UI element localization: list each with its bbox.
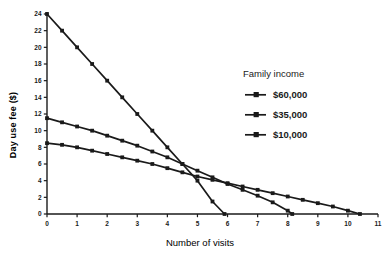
series-marker bbox=[301, 198, 305, 202]
series-marker bbox=[211, 200, 215, 204]
y-tick-label: 0 bbox=[38, 210, 42, 217]
series-marker bbox=[271, 191, 275, 195]
series-marker bbox=[181, 170, 185, 174]
series-marker bbox=[196, 175, 200, 179]
x-tick-label: 4 bbox=[166, 220, 170, 227]
y-tick-label: 8 bbox=[38, 144, 42, 151]
y-tick-label: 22 bbox=[34, 27, 42, 34]
y-tick-label: 20 bbox=[34, 44, 42, 51]
legend-title: Family income bbox=[243, 68, 304, 79]
series-marker bbox=[196, 179, 200, 183]
series-marker bbox=[60, 120, 64, 124]
x-tick-label: 10 bbox=[344, 220, 352, 227]
series-marker bbox=[241, 185, 245, 189]
y-tick-label: 14 bbox=[34, 94, 42, 101]
series-marker bbox=[241, 188, 245, 192]
series-marker bbox=[211, 175, 215, 179]
series-marker bbox=[75, 45, 79, 49]
y-tick-label: 6 bbox=[38, 160, 42, 167]
x-tick-label: 5 bbox=[196, 220, 200, 227]
series-marker bbox=[286, 209, 290, 213]
legend-label: $35,000 bbox=[273, 109, 307, 120]
legend-label: $10,000 bbox=[273, 129, 307, 140]
series-marker bbox=[135, 144, 139, 148]
x-tick-label: 6 bbox=[226, 220, 230, 227]
series-marker bbox=[346, 209, 350, 213]
y-tick-label: 12 bbox=[34, 110, 42, 117]
y-tick-label: 2 bbox=[38, 194, 42, 201]
series-marker bbox=[165, 145, 169, 149]
series-marker bbox=[105, 79, 109, 83]
series-marker bbox=[358, 212, 362, 216]
series-marker bbox=[45, 116, 49, 120]
series-marker bbox=[90, 129, 94, 133]
series-marker bbox=[75, 125, 79, 129]
series-marker bbox=[105, 152, 109, 156]
series-marker bbox=[290, 212, 294, 216]
series-marker bbox=[120, 95, 124, 99]
series-marker bbox=[165, 166, 169, 170]
series-marker bbox=[135, 112, 139, 116]
series-marker bbox=[60, 29, 64, 33]
series-marker bbox=[286, 195, 290, 199]
series-marker bbox=[75, 145, 79, 149]
series-marker bbox=[90, 62, 94, 66]
x-tick-label: 0 bbox=[45, 220, 49, 227]
series-marker bbox=[181, 162, 185, 166]
series-marker bbox=[120, 139, 124, 143]
series-marker bbox=[316, 201, 320, 205]
legend-label: $60,000 bbox=[273, 89, 307, 100]
series-marker bbox=[120, 155, 124, 159]
series-marker bbox=[150, 150, 154, 154]
series-marker bbox=[256, 188, 260, 192]
series-marker bbox=[90, 149, 94, 153]
series-marker bbox=[165, 155, 169, 159]
series-marker bbox=[256, 194, 260, 198]
x-tick-label: 11 bbox=[375, 220, 382, 227]
y-tick-label: 18 bbox=[34, 60, 42, 67]
series-marker bbox=[60, 143, 64, 147]
day-use-fee-chart: 02468101214161820222401234567891011 Fami… bbox=[0, 0, 392, 258]
series-marker bbox=[226, 182, 230, 186]
series-marker bbox=[105, 134, 109, 138]
x-tick-label: 2 bbox=[105, 220, 109, 227]
legend-marker bbox=[254, 112, 259, 117]
series-marker bbox=[196, 169, 200, 173]
x-tick-label: 3 bbox=[135, 220, 139, 227]
series-marker bbox=[331, 205, 335, 209]
x-tick-label: 9 bbox=[316, 220, 320, 227]
y-tick-label: 16 bbox=[34, 77, 42, 84]
series-marker bbox=[45, 12, 49, 16]
series-marker bbox=[150, 162, 154, 166]
x-axis-title: Number of visits bbox=[166, 237, 234, 248]
x-tick-label: 7 bbox=[256, 220, 260, 227]
legend-marker bbox=[254, 132, 259, 137]
y-tick-label: 24 bbox=[34, 10, 42, 17]
y-axis-title: Day use fee ($) bbox=[8, 92, 18, 159]
x-tick-label: 1 bbox=[75, 220, 79, 227]
series-marker bbox=[45, 141, 49, 145]
legend-marker bbox=[254, 92, 259, 97]
y-tick-label: 10 bbox=[34, 127, 42, 134]
series-marker bbox=[135, 159, 139, 163]
series-marker bbox=[271, 200, 275, 204]
series-marker bbox=[150, 129, 154, 133]
x-tick-label: 8 bbox=[286, 220, 290, 227]
series-marker bbox=[223, 212, 227, 216]
y-tick-label: 4 bbox=[38, 177, 42, 184]
